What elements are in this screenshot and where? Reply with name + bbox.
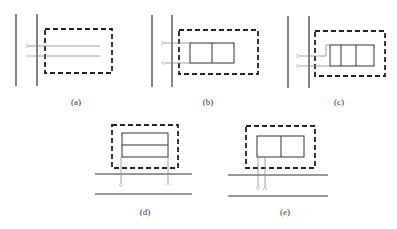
panel-label: (b)	[203, 97, 214, 107]
dashed-boundary	[179, 30, 258, 74]
panel-a: (a)	[16, 14, 112, 107]
panel-b: (b)	[152, 15, 258, 107]
panel-c: (c)	[288, 16, 385, 107]
dashed-boundary	[45, 29, 112, 73]
panel-label: (a)	[71, 97, 81, 107]
panel-e: (e)	[228, 126, 328, 217]
panel-label: (c)	[334, 97, 344, 107]
inner-rect	[330, 45, 374, 66]
panel-d: (d)	[95, 125, 192, 217]
panel-label: (e)	[280, 207, 290, 217]
diagram-canvas: (a) (b) (c) (d)	[0, 0, 397, 229]
panel-label: (d)	[140, 207, 151, 217]
